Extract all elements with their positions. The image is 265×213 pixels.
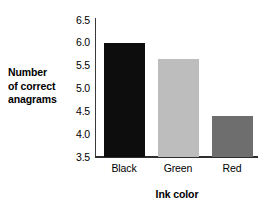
bar-black	[104, 43, 145, 157]
y-axis-tick-label: 5.0	[66, 83, 90, 94]
x-axis-title: Ink color	[96, 188, 258, 200]
plot-area	[96, 20, 258, 157]
y-axis-title-line-3: anagrams	[8, 93, 70, 107]
x-axis-tick-label: Red	[205, 162, 259, 175]
bar-red	[212, 116, 253, 157]
y-axis-tick-label: 6.5	[66, 15, 90, 26]
bar-slot	[212, 20, 253, 157]
y-axis-title-line-1: Number	[8, 66, 70, 80]
y-axis-title-line-2: of correct	[8, 80, 70, 94]
y-axis-tick-labels: 6.56.05.55.04.54.03.5	[66, 13, 90, 163]
bar-green	[158, 59, 199, 157]
x-axis-tick-labels: BlackGreenRed	[96, 162, 258, 178]
x-axis-tick-label: Green	[151, 162, 205, 175]
bar-slot	[104, 20, 145, 157]
y-axis-tick-label: 4.5	[66, 106, 90, 117]
bar-slot	[158, 20, 199, 157]
y-axis-title: Number of correct anagrams	[8, 66, 70, 107]
y-axis-tick-label: 3.5	[66, 152, 90, 163]
y-axis-tick-label: 5.5	[66, 60, 90, 71]
y-axis-tick-label: 6.0	[66, 37, 90, 48]
y-axis-tick-label: 4.0	[66, 129, 90, 140]
x-axis-tick-label: Black	[97, 162, 151, 175]
bar-chart-figure: Number of correct anagrams 6.56.05.55.04…	[0, 0, 265, 213]
